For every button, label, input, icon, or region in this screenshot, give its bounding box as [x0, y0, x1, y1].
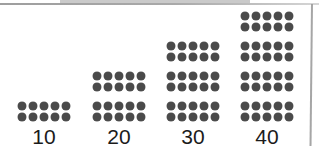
dot	[178, 113, 186, 121]
dot	[189, 102, 197, 110]
dot	[241, 72, 249, 80]
dot-group-20: 20	[82, 70, 156, 148]
dot	[189, 113, 197, 121]
dot-group-30: 30	[156, 40, 230, 148]
dot	[104, 72, 112, 80]
dot	[263, 12, 271, 20]
dot	[200, 42, 208, 50]
plot-area: 10203040	[0, 0, 319, 148]
dot	[189, 72, 197, 80]
dot	[104, 113, 112, 121]
dot	[200, 72, 208, 80]
dot	[51, 113, 59, 121]
dot	[285, 42, 293, 50]
dot	[285, 113, 293, 121]
dot	[115, 83, 123, 91]
dot	[62, 113, 70, 121]
group-value-label: 30	[181, 125, 204, 148]
dot	[115, 72, 123, 80]
dot	[211, 72, 219, 80]
dot-block	[166, 40, 221, 62]
dot	[178, 42, 186, 50]
dot	[189, 83, 197, 91]
dot	[93, 113, 101, 121]
dot	[274, 113, 282, 121]
dot	[211, 53, 219, 61]
dot	[252, 102, 260, 110]
dot	[51, 102, 59, 110]
dot	[211, 113, 219, 121]
dot	[274, 102, 282, 110]
dot	[263, 72, 271, 80]
dot	[167, 102, 175, 110]
dot	[18, 113, 26, 121]
dot	[137, 72, 145, 80]
dot	[285, 53, 293, 61]
dot-group-10: 10	[7, 100, 81, 148]
dot-block	[92, 70, 147, 92]
dot	[285, 23, 293, 31]
dot-group-40: 40	[230, 10, 304, 148]
dot	[167, 83, 175, 91]
dot-block	[166, 100, 221, 122]
dot	[104, 102, 112, 110]
dot-block	[240, 70, 295, 92]
dot	[29, 102, 37, 110]
dot-block-stack	[92, 70, 147, 122]
dot	[285, 72, 293, 80]
dot	[93, 83, 101, 91]
dot	[274, 53, 282, 61]
dot	[263, 23, 271, 31]
group-value-label: 20	[107, 125, 130, 148]
dot	[285, 83, 293, 91]
dot	[126, 102, 134, 110]
dot-block-stack	[166, 40, 221, 122]
dot	[178, 83, 186, 91]
dot	[274, 83, 282, 91]
dot	[241, 23, 249, 31]
dot-block	[240, 40, 295, 62]
dot	[200, 102, 208, 110]
dot	[126, 113, 134, 121]
dot-block	[17, 100, 72, 122]
dot	[263, 42, 271, 50]
dot	[285, 102, 293, 110]
dot	[241, 113, 249, 121]
dot	[200, 53, 208, 61]
dot	[200, 113, 208, 121]
dot-block	[240, 100, 295, 122]
group-value-label: 40	[255, 125, 278, 148]
dot	[29, 113, 37, 121]
dot	[178, 102, 186, 110]
dot	[241, 12, 249, 20]
dot	[137, 113, 145, 121]
dot	[252, 42, 260, 50]
dot	[241, 102, 249, 110]
dot	[252, 12, 260, 20]
dot-block	[166, 70, 221, 92]
dot-block	[240, 10, 295, 32]
dot	[167, 72, 175, 80]
dot	[252, 23, 260, 31]
dot	[18, 102, 26, 110]
dot	[126, 72, 134, 80]
dot	[178, 53, 186, 61]
dot	[241, 83, 249, 91]
dot	[200, 83, 208, 91]
dot	[263, 83, 271, 91]
dot	[274, 23, 282, 31]
dot-block	[92, 100, 147, 122]
dot	[211, 83, 219, 91]
dot	[93, 102, 101, 110]
dot	[40, 113, 48, 121]
dot	[167, 53, 175, 61]
dot	[263, 113, 271, 121]
dot	[167, 42, 175, 50]
dot	[211, 102, 219, 110]
dot	[285, 12, 293, 20]
dot	[167, 113, 175, 121]
dot	[137, 102, 145, 110]
dot	[263, 102, 271, 110]
dot	[263, 53, 271, 61]
dot	[93, 72, 101, 80]
